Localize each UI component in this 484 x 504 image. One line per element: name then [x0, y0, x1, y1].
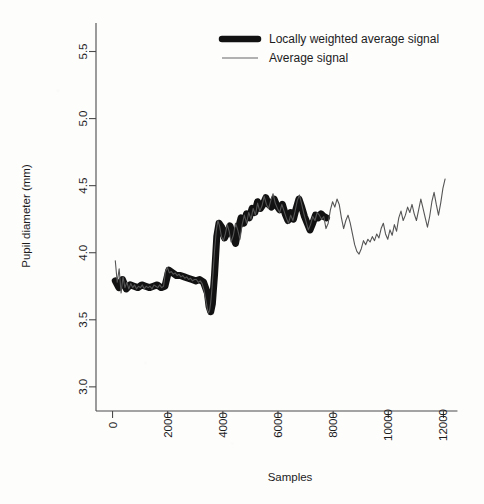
data-series-group [115, 179, 445, 313]
x-tick-label: 8000 [327, 412, 339, 438]
x-tick-label: 0 [107, 422, 119, 428]
x-axis: 020004000600080001000012000 [96, 409, 457, 441]
y-tick-label: 5.0 [77, 111, 89, 127]
y-tick-label: 3.0 [77, 379, 89, 395]
x-tick-label: 10000 [382, 409, 394, 441]
pupil-diameter-chart: 3.03.54.04.55.05.5 020004000600080001000… [0, 0, 484, 504]
legend-label: Locally weighted average signal [269, 32, 439, 46]
y-axis: 3.03.54.04.55.05.5 [77, 23, 96, 411]
series-average [115, 179, 445, 313]
x-tick-label: 4000 [217, 412, 229, 438]
y-tick-label: 4.0 [77, 245, 89, 261]
x-tick-label: 6000 [272, 412, 284, 438]
y-tick-label: 4.5 [77, 178, 89, 194]
legend-label: Average signal [269, 51, 348, 65]
y-tick-label: 3.5 [77, 312, 89, 328]
x-tick-label: 12000 [437, 409, 449, 441]
series-locally-weighted-average [115, 198, 326, 312]
y-axis-title: Pupil diameter (mm) [20, 164, 32, 268]
x-axis-title: Samples [268, 471, 313, 483]
x-tick-label: 2000 [162, 412, 174, 438]
chart-canvas: 3.03.54.04.55.05.5 020004000600080001000… [0, 0, 484, 504]
legend: Locally weighted average signalAverage s… [222, 32, 439, 65]
y-tick-label: 5.5 [77, 44, 89, 60]
